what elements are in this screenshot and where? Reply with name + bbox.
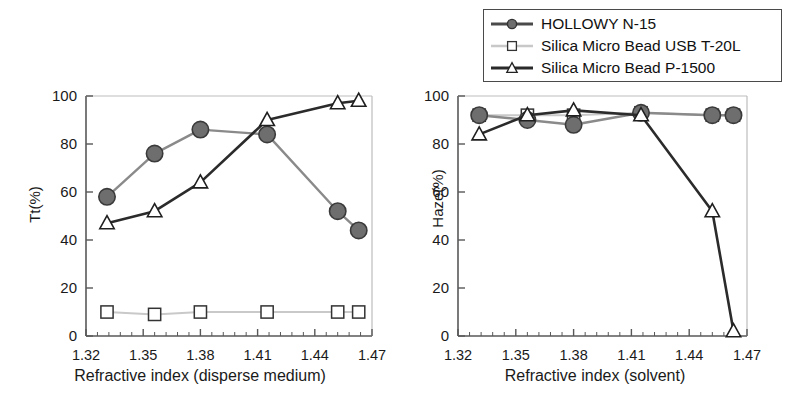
legend-label-usb-t20l: Silica Micro Bead USB T-20L [541, 36, 741, 56]
data-point-marker [149, 308, 161, 320]
y-tick-label: 100 [424, 87, 449, 104]
series-line [107, 130, 359, 231]
data-point-marker [726, 324, 740, 337]
x-tick-label: 1.44 [301, 347, 329, 363]
y-tick-label: 80 [432, 135, 449, 152]
x-tick-label: 1.41 [617, 347, 645, 363]
legend-item-usb-t20l: Silica Micro Bead USB T-20L [489, 35, 776, 57]
y-tick-label: 20 [432, 279, 449, 296]
y-tick-label: 60 [60, 183, 77, 200]
legend-item-hollowy: HOLLOWY N-15 [489, 13, 776, 35]
data-point-marker [351, 222, 367, 238]
y-tick-label: 60 [432, 183, 449, 200]
data-point-marker [192, 121, 208, 137]
x-tick-label: 1.35 [502, 347, 530, 363]
y-tick-label: 0 [69, 327, 77, 344]
x-tick-label: 1.32 [72, 347, 100, 363]
x-tick-label: 1.32 [444, 347, 472, 363]
data-point-marker [147, 204, 162, 217]
data-point-marker [330, 203, 346, 219]
legend-key-open-triangle-icon [489, 58, 535, 78]
legend-key-filled-circle-icon [489, 14, 535, 34]
data-point-marker [565, 117, 581, 133]
data-point-marker [471, 107, 487, 123]
legend-label-p1500: Silica Micro Bead P-1500 [541, 58, 715, 78]
data-point-marker [353, 306, 365, 318]
series-line [107, 312, 359, 314]
x-tick-label: 1.44 [675, 347, 703, 363]
x-tick-label: 1.41 [243, 347, 271, 363]
data-point-marker [725, 107, 741, 123]
legend-key-open-square-icon [489, 36, 535, 56]
y-tick-label: 0 [441, 327, 449, 344]
legend-label-hollowy: HOLLOWY N-15 [541, 14, 656, 34]
y-tick-label: 40 [60, 231, 77, 248]
data-point-marker [351, 93, 366, 106]
data-point-marker [99, 189, 115, 205]
x-axis-label-haze: Refractive index (solvent) [430, 367, 760, 385]
y-tick-label: 100 [52, 87, 77, 104]
x-tick-label: 1.38 [186, 347, 214, 363]
series-line [479, 110, 733, 331]
y-tick-label: 20 [60, 279, 77, 296]
x-tick-label: 1.47 [358, 347, 386, 363]
data-point-marker [146, 145, 162, 161]
y-tick-label: 80 [60, 135, 77, 152]
data-point-marker [261, 306, 273, 318]
data-point-marker [194, 306, 206, 318]
data-point-marker [259, 126, 275, 142]
data-point-marker [101, 306, 113, 318]
legend-item-p1500: Silica Micro Bead P-1500 [489, 57, 776, 79]
figure-root: Tt(%) Refractive index (disperse medium)… [0, 0, 799, 416]
legend: HOLLOWY N-15 Silica Micro Bead USB T-20L… [483, 9, 782, 82]
data-point-marker [704, 107, 720, 123]
chart-panel-tt: Tt(%) Refractive index (disperse medium)… [0, 0, 399, 416]
x-axis-label-tt: Refractive index (disperse medium) [40, 367, 360, 385]
data-point-marker [332, 306, 344, 318]
x-tick-label: 1.38 [559, 347, 587, 363]
x-tick-label: 1.35 [129, 347, 157, 363]
y-tick-label: 40 [432, 231, 449, 248]
x-tick-label: 1.47 [733, 347, 761, 363]
plot-area-tt: 0204060801001.321.351.381.411.441.47 [0, 0, 399, 366]
